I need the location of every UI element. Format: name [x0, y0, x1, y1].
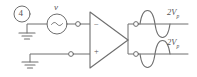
terminal-node-input-top — [76, 22, 81, 27]
item-number-label: 4 — [19, 9, 24, 18]
wire-ground-to-source — [27, 24, 47, 33]
terminal-node-input-bottom — [69, 52, 74, 57]
ac-source-sine-icon — [52, 22, 63, 25]
source-label: v — [54, 3, 58, 12]
output-label-bottom-subscript: p — [176, 43, 179, 49]
opamp-inverting-input-label: − — [94, 20, 99, 29]
output-label-top-subscript: p — [176, 13, 179, 19]
wire-ground-to-node-bottom — [30, 54, 69, 62]
opamp-noninverting-input-label: + — [94, 47, 99, 56]
output-label-top: 2Vp — [167, 8, 179, 19]
circuit-figure: 4 v − + 2Vp 2Vp — [0, 0, 197, 77]
wire-opamp-to-output-bottom — [128, 40, 134, 54]
output-label-bottom: 2Vp — [167, 38, 179, 49]
wire-opamp-to-output-top — [128, 24, 134, 40]
terminal-node-output-bottom — [134, 52, 139, 57]
terminal-node-output-top — [134, 22, 139, 27]
